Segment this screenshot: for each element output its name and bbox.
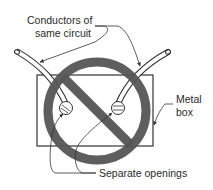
right-opening bbox=[112, 102, 125, 115]
conductors-label-line2: same circuit bbox=[35, 27, 91, 39]
openings-label: Separate openings bbox=[99, 167, 187, 179]
metal-box-label-line2: box bbox=[176, 106, 194, 118]
conductors-label-line1: Conductors of bbox=[27, 14, 92, 26]
metal-box-leader bbox=[154, 104, 173, 125]
metal-box-label-line1: Metal bbox=[176, 93, 202, 105]
diagram-canvas: Conductors of same circuit Metal box Sep… bbox=[0, 0, 213, 190]
